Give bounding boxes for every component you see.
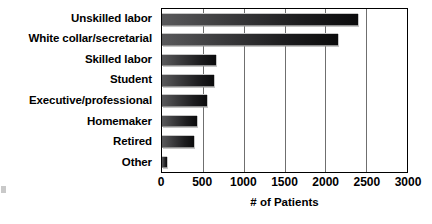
value-axis: 050010001500200025003000: [161, 176, 408, 192]
bar-row: [162, 111, 407, 131]
category-label-white-collar-secretarial: White collar/secretarial: [0, 29, 157, 50]
bar-skilled-labor: [162, 54, 216, 67]
category-label-other: Other: [0, 152, 157, 173]
x-tick-label-500: 500: [192, 176, 212, 188]
category-label-retired: Retired: [0, 132, 157, 153]
bar-row: [162, 91, 407, 111]
bar-row: [162, 9, 407, 29]
category-label-student: Student: [0, 70, 157, 91]
bar-unskilled-labor: [162, 13, 358, 26]
x-tick-label-1500: 1500: [271, 176, 298, 188]
bar-row: [162, 131, 407, 151]
scan-artifact: [1, 186, 6, 193]
category-label-executive-professional: Executive/professional: [0, 91, 157, 112]
x-tick-label-0: 0: [158, 176, 165, 188]
bar-student: [162, 74, 214, 87]
bar-row: [162, 29, 407, 49]
bar-white-collar-secretarial: [162, 33, 338, 46]
bar-row: [162, 70, 407, 90]
bar-row: [162, 152, 407, 172]
bar-chart: Unskilled labor White collar/secretarial…: [0, 0, 432, 224]
plot-area: [161, 8, 408, 173]
bar-homemaker: [162, 115, 197, 128]
bar-other: [162, 156, 167, 169]
category-label-unskilled-labor: Unskilled labor: [0, 8, 157, 29]
x-tick-label-1000: 1000: [230, 176, 257, 188]
category-label-skilled-labor: Skilled labor: [0, 49, 157, 70]
bar-row: [162, 50, 407, 70]
bars-layer: [162, 9, 407, 172]
x-tick-label-2000: 2000: [312, 176, 339, 188]
category-axis: Unskilled labor White collar/secretarial…: [0, 8, 157, 173]
bar-retired: [162, 135, 194, 148]
x-tick-label-3000: 3000: [395, 176, 422, 188]
category-label-homemaker: Homemaker: [0, 111, 157, 132]
bar-executive-professional: [162, 94, 207, 107]
x-tick-label-2500: 2500: [353, 176, 380, 188]
x-axis-title: # of Patients: [161, 197, 408, 209]
